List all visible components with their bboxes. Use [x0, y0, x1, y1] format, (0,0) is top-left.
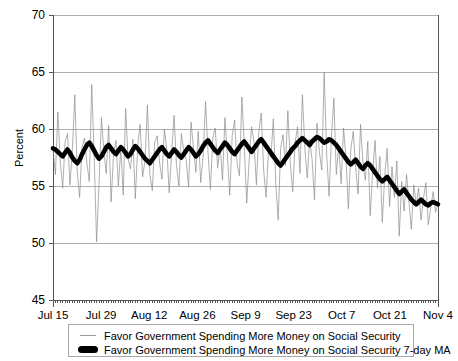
- x-axis-ticks: [53, 300, 438, 307]
- legend-label-daily: Favor Government Spending More Money on …: [104, 330, 401, 342]
- thin-line-marker-icon: [77, 335, 99, 336]
- chart-container: Percent 455055606570 Jul 15Jul 29Aug 12A…: [0, 0, 458, 361]
- thick-line-marker-icon: [77, 346, 99, 353]
- gridlines: [53, 15, 438, 243]
- legend-item-moving-average: Favor Government Spending More Money on …: [69, 343, 413, 356]
- chart-legend: Favor Government Spending More Money on …: [68, 324, 414, 357]
- series-line-daily: [53, 72, 438, 242]
- plot-area: [0, 0, 458, 361]
- legend-item-daily: Favor Government Spending More Money on …: [69, 329, 413, 342]
- legend-label-moving-average: Favor Government Spending More Money on …: [104, 344, 451, 356]
- y-axis-ticks: [49, 15, 53, 300]
- data-series-layer: [53, 72, 438, 242]
